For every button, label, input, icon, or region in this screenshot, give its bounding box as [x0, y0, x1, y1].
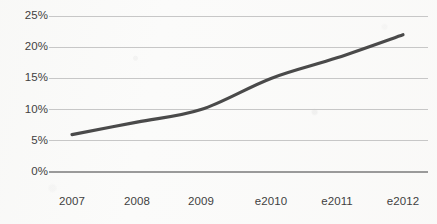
x-axis-tick-label: e2012	[387, 196, 419, 208]
y-axis-tick-label: 20%	[2, 41, 48, 53]
y-axis-tick-label: 10%	[2, 104, 48, 116]
x-axis-tick-label: 2008	[124, 196, 150, 208]
line-chart: 25%20%15%10%5%0% 200720082009e2010e2011e…	[0, 0, 437, 224]
plot-area	[0, 0, 437, 224]
y-axis-tick-label: 0%	[2, 166, 48, 178]
data-series-group	[72, 35, 403, 135]
series-line-path	[72, 35, 403, 135]
y-axis-tick-label: 25%	[2, 10, 48, 22]
x-axis-tick-label: e2011	[321, 196, 353, 208]
x-axis-tick-label: 2007	[59, 196, 85, 208]
x-axis-tick-label: 2009	[188, 196, 214, 208]
x-axis-tick-label: e2010	[255, 196, 287, 208]
y-axis-tick-label: 15%	[2, 72, 48, 84]
y-axis-tick-label: 5%	[2, 135, 48, 147]
